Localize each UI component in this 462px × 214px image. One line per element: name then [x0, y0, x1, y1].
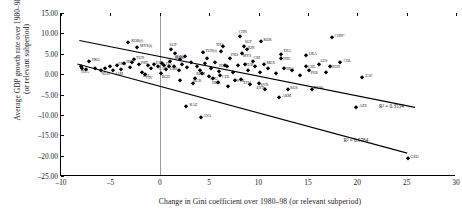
x-tick-label: –10 — [55, 178, 66, 187]
chart-figure: Average GDP growth rate over 1980–98 (or… — [0, 0, 462, 214]
y-tick-label: 15.00 — [41, 9, 58, 18]
y-tick-label: 0.00 — [45, 70, 58, 79]
y-tick-label: 10.00 — [41, 29, 58, 38]
y-tick-mark — [61, 176, 64, 177]
y-tick-label: –20.00 — [38, 151, 58, 160]
r-squared-annotation: R² = 0.3534 — [379, 103, 404, 109]
x-tick-label: 10 — [255, 178, 262, 187]
y-tick-label: –15.00 — [38, 131, 58, 140]
x-tick-label: –5 — [107, 178, 114, 187]
x-tick-label: 0 — [158, 178, 162, 187]
y-tick-label: –10.00 — [38, 110, 58, 119]
x-tick-mark — [456, 13, 457, 16]
x-tick-label: 15 — [304, 178, 311, 187]
trendline-overlay — [61, 13, 455, 175]
x-tick-label: 5 — [207, 178, 211, 187]
x-tick-label: 20 — [354, 178, 361, 187]
x-tick-label: 30 — [452, 178, 459, 187]
plot-area: 15.0010.005.000.00–5.00–10.00–15.00–20.0… — [60, 13, 455, 176]
r-squared-annotation: R² = 0.5784 — [343, 137, 368, 143]
y-tick-label: 5.00 — [45, 49, 58, 58]
upper-trendline — [79, 41, 415, 108]
x-axis-title: Change in Gini coefficient over 1980–98 … — [60, 197, 460, 206]
y-tick-label: –5.00 — [41, 90, 58, 99]
y-axis-title: Average GDP growth rate over 1980–98 (or… — [13, 0, 31, 139]
x-tick-label: 25 — [403, 178, 410, 187]
